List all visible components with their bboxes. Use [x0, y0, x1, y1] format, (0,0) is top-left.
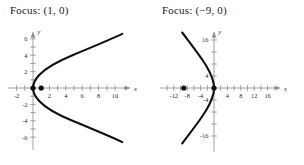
left-xlabel-8: 8	[97, 92, 100, 99]
right-focus-dot	[181, 85, 186, 90]
left-xlabel-4: 4	[64, 92, 68, 99]
left-focus-dot	[39, 85, 44, 90]
panel-right: Focus: (−9, 0)	[152, 0, 304, 165]
left-ylabel-m6: -6	[22, 134, 27, 141]
left-xlabel-m2: -2	[14, 92, 19, 99]
left-graph-svg: -2 2 4 6 8 10 6 4 2 -2 -4 -6 x y	[0, 20, 152, 165]
right-x-arrowhead	[275, 86, 281, 91]
left-xlabel-2: 2	[48, 92, 51, 99]
left-x-axis-name: x	[133, 85, 137, 92]
right-ylabel-4: 4	[205, 72, 209, 79]
right-y-arrowhead	[212, 32, 217, 38]
left-ylabel-m4: -4	[22, 117, 28, 124]
panel-left-plot: -2 2 4 6 8 10 6 4 2 -2 -4 -6 x y	[0, 20, 152, 165]
left-ylabel-m2: -2	[22, 101, 27, 108]
left-x-arrowhead	[125, 86, 131, 91]
right-vertex-dot	[211, 85, 216, 90]
right-ylabel-m4: -4	[203, 96, 209, 103]
panel-right-plot: -12 -8 -4 4 8 12 16 16 4 -4 -16 x y	[152, 20, 304, 165]
right-y-axis-name: y	[218, 28, 222, 35]
right-ylabel-16: 16	[202, 36, 208, 43]
right-xlabel-m8: -8	[185, 92, 190, 99]
left-vertex-dot	[30, 85, 35, 90]
left-ylabel-4: 4	[24, 52, 28, 59]
figure-sheet: Focus: (1, 0)	[0, 0, 304, 165]
left-xlabel-6: 6	[81, 92, 84, 99]
right-xlabel-4: 4	[226, 92, 230, 99]
right-x-axis-name: x	[283, 85, 287, 92]
left-xlabel-10: 10	[112, 92, 118, 99]
right-xlabel-8: 8	[239, 92, 242, 99]
left-y-axis-name: y	[37, 28, 41, 35]
right-xlabel-m12: -12	[170, 92, 179, 99]
panel-right-title: Focus: (−9, 0)	[152, 4, 304, 17]
panel-left: Focus: (1, 0)	[0, 0, 152, 165]
right-xlabel-16: 16	[264, 92, 270, 99]
left-ylabel-2: 2	[24, 68, 27, 75]
left-ylabel-6: 6	[24, 35, 27, 42]
left-axes	[8, 32, 130, 150]
left-y-arrowhead	[31, 32, 36, 38]
panel-left-title: Focus: (1, 0)	[0, 4, 162, 17]
right-xlabel-12: 12	[251, 92, 257, 99]
right-ylabel-m16: -16	[200, 132, 209, 139]
right-graph-svg: -12 -8 -4 4 8 12 16 16 4 -4 -16 x y	[152, 20, 304, 165]
